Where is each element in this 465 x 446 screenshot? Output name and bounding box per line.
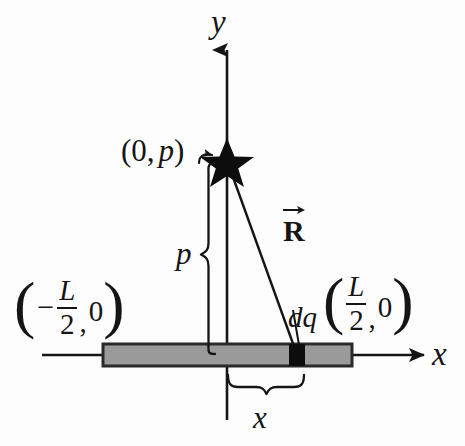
charge-element-label: dq: [288, 303, 317, 332]
vector-r-letter: R: [283, 214, 305, 247]
brace-p: [201, 163, 215, 354]
charged-rod: [103, 344, 352, 366]
physics-diagram-figure: y x (0,p) p x dq R ( − L 2 , 0 ) (: [0, 0, 465, 446]
field-point-coordinate-label: (0,p): [121, 135, 184, 166]
coordinate-comma: ,: [368, 304, 375, 335]
fraction-l-over-2: L 2: [55, 276, 79, 339]
left-endpoint-coordinate-label: ( − L 2 , 0 ): [14, 276, 124, 339]
coordinate-zero: 0: [87, 297, 104, 326]
close-paren: ): [103, 279, 124, 331]
close-paren: ): [392, 275, 413, 327]
x-axis-label: x: [432, 338, 447, 371]
charge-element-square: [289, 344, 305, 366]
minus-sign: −: [35, 292, 55, 322]
right-endpoint-coordinate-label: ( L 2 , 0 ): [323, 272, 414, 335]
coordinate-zero: 0: [376, 293, 393, 322]
y-axis-label: y: [211, 6, 226, 39]
open-paren: (: [121, 133, 131, 168]
field-point-x-value: 0: [131, 133, 147, 168]
fraction-l-over-2: L 2: [344, 272, 368, 335]
distance-p-label: p: [176, 238, 192, 269]
fraction-numerator: L: [57, 276, 77, 307]
vector-r-label: R: [283, 213, 305, 246]
coordinate-comma: ,: [79, 308, 86, 339]
coordinate-comma: ,: [147, 133, 155, 168]
fraction-denominator: 2: [347, 305, 366, 336]
brace-x: [228, 375, 304, 394]
open-paren: (: [323, 275, 344, 327]
vector-arrow-icon: [282, 204, 305, 214]
vector-r-line: [229, 166, 296, 352]
open-paren: (: [14, 279, 35, 331]
fraction-numerator: L: [346, 272, 366, 303]
field-point-y-value: p: [155, 133, 175, 168]
fraction-denominator: 2: [58, 309, 77, 340]
close-paren: ): [174, 133, 184, 168]
diagram-canvas: [0, 0, 465, 446]
distance-x-label: x: [253, 402, 267, 433]
